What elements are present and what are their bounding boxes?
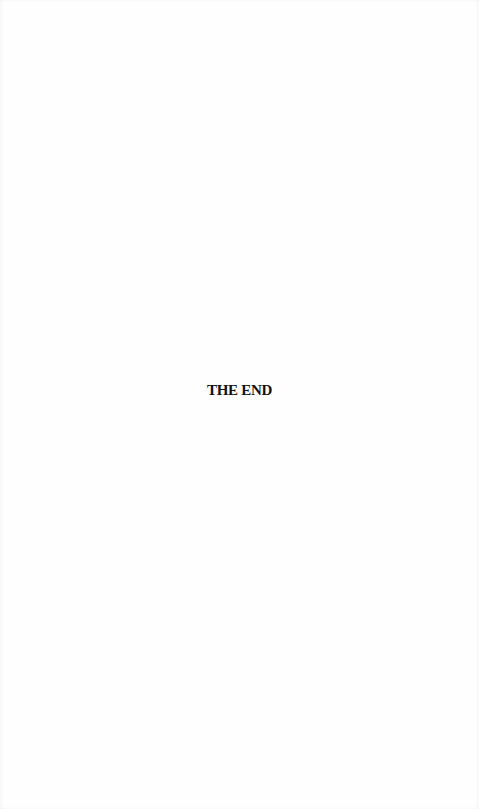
closing-text: THE END: [0, 380, 479, 400]
book-page: THE END: [0, 0, 479, 809]
